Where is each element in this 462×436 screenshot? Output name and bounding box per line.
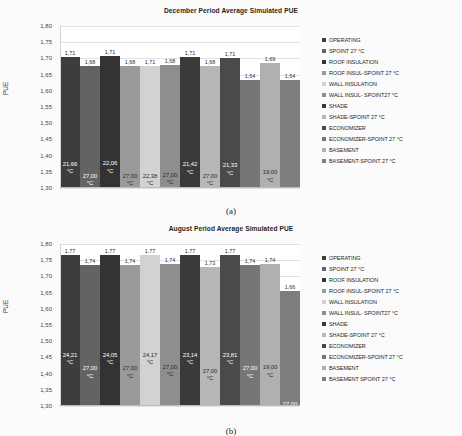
- bar[interactable]: 27,00°C: [120, 66, 140, 188]
- bar[interactable]: 22,06°C: [100, 56, 120, 188]
- legend-item[interactable]: WALL INSULATION: [322, 80, 462, 87]
- bar-temperature-label: 27,00°C: [160, 364, 180, 379]
- legend-swatch-icon: [322, 300, 326, 304]
- legend-swatch-icon: [322, 38, 326, 42]
- bar[interactable]: 19,00°C: [260, 63, 280, 188]
- bar[interactable]: 27,00°C: [200, 66, 220, 188]
- legend-swatch-icon: [322, 93, 326, 97]
- legend-item[interactable]: BASEMENT: [322, 364, 462, 371]
- bar-temperature-label: 21,33°C: [220, 162, 240, 177]
- legend-item[interactable]: ROOF INSULATION: [322, 58, 462, 65]
- bar-slot: 27,00°C1,74: [240, 244, 260, 406]
- bar[interactable]: 24,05°C: [100, 255, 120, 406]
- legend-item[interactable]: ROOF INSUL-SPOINT 27 °C: [322, 69, 462, 76]
- y-tick-label: 1,40: [40, 153, 52, 159]
- legend-label: SHADE-SPOINT 27 °C: [329, 114, 385, 120]
- y-axis-line-a: [60, 26, 61, 188]
- legend-swatch-icon: [322, 159, 326, 163]
- legend-label: SHADE: [329, 321, 348, 327]
- legend-label: SHADE: [329, 103, 348, 109]
- x-axis-line-a: [60, 187, 300, 188]
- bar-temperature-label: 27,00°C: [240, 365, 260, 380]
- legend-item[interactable]: ECONOMIZER-SPOINT 27 °C: [322, 135, 462, 142]
- bar-slot: 23,81°C1,77: [220, 244, 240, 406]
- bar-temperature-label: 27,00°C: [80, 365, 100, 380]
- y-tick-label: 1,40: [40, 371, 52, 377]
- bar[interactable]: 21,42°C: [180, 57, 200, 188]
- legend-item[interactable]: ECONOMIZER-SPOINT 27 °C: [322, 353, 462, 360]
- bar-temperature-label: 24,21°C: [60, 352, 80, 367]
- legend-label: WALL INSUL- SPOINT27 °C: [329, 310, 398, 316]
- legend-item[interactable]: SHADE-SPOINT 27 °C: [322, 331, 462, 338]
- bar-slot: 19,00°C1,74: [260, 244, 280, 406]
- bar-slot: 24,17°C1,77: [140, 244, 160, 406]
- legend-label: ECONOMIZER-SPOINT 27 °C: [329, 136, 403, 142]
- legend-swatch-icon: [322, 60, 326, 64]
- legend-item[interactable]: SHADE: [322, 320, 462, 327]
- figure-a: December Period Average Simulated PUE PU…: [0, 0, 462, 218]
- bar[interactable]: 27,00°C: [80, 265, 100, 406]
- figure-caption-a: (a): [0, 206, 462, 216]
- bar[interactable]: 22,38°C: [140, 66, 160, 188]
- legend-item[interactable]: BASEMENT: [322, 146, 462, 153]
- chart-title-august: August Period Average Simulated PUE: [0, 225, 462, 232]
- bar[interactable]: 27,00°C: [240, 80, 260, 188]
- legend-item[interactable]: WALL INSUL- SPOINT27 °C: [322, 309, 462, 316]
- y-tick-label: 1,75: [40, 257, 52, 263]
- bar[interactable]: 27,00°C: [120, 265, 140, 406]
- bar-slot: 27,00°C1,64: [280, 26, 300, 188]
- legend-item[interactable]: WALL INSULATION: [322, 298, 462, 305]
- bar[interactable]: 23,81°C: [220, 255, 240, 406]
- y-tick-label: 1,35: [40, 387, 52, 393]
- legend-label: BASEMENT: [329, 147, 359, 153]
- bar[interactable]: 27,00°C: [200, 267, 220, 406]
- bar-slot: 24,05°C1,77: [100, 244, 120, 406]
- legend-item[interactable]: OPERATING: [322, 36, 462, 43]
- legend-item[interactable]: OPERATING: [322, 254, 462, 261]
- y-tick-label: 1,60: [40, 306, 52, 312]
- legend-label: BASEMENT: [329, 365, 359, 371]
- legend-item[interactable]: SPOINT 27 °C: [322, 47, 462, 54]
- bar-slot: 27,00°C1,74: [160, 244, 180, 406]
- bar[interactable]: 27,00°C: [160, 264, 180, 406]
- legend-item[interactable]: ECONOMIZER: [322, 124, 462, 131]
- bar-temperature-label: 27,00°C: [280, 401, 300, 416]
- bar[interactable]: 24,17°C: [140, 255, 160, 406]
- bar-value-label: 1,66: [277, 284, 303, 290]
- legend-item[interactable]: ROOF INSULATION: [322, 276, 462, 283]
- bar[interactable]: 27,00°C: [240, 265, 260, 406]
- y-axis-label-a: PUE: [2, 82, 9, 95]
- bar-temperature-label: 23,14°C: [180, 352, 200, 367]
- y-axis-line-b: [60, 244, 61, 406]
- bar[interactable]: 21,66°C: [60, 57, 80, 188]
- bar-temperature-label: 22,06°C: [100, 160, 120, 175]
- legend-item[interactable]: ECONOMIZER: [322, 342, 462, 349]
- bar[interactable]: 24,21°C: [60, 255, 80, 406]
- y-tick-label: 1,60: [40, 88, 52, 94]
- legend-item[interactable]: SHADE: [322, 102, 462, 109]
- bar[interactable]: 27,00°C: [160, 65, 180, 188]
- y-tick-label: 1,30: [40, 403, 52, 409]
- bar[interactable]: 27,00°C: [280, 80, 300, 188]
- legend-swatch-icon: [322, 115, 326, 119]
- bar[interactable]: 27,00°C: [280, 291, 300, 406]
- legend-label: WALL INSULATION: [329, 299, 377, 305]
- legend-swatch-icon: [322, 311, 326, 315]
- legend-item[interactable]: ROOF INSUL-SPOINT 27 °C: [322, 287, 462, 294]
- figure-page: December Period Average Simulated PUE PU…: [0, 0, 462, 436]
- bar-slot: 24,21°C1,77: [60, 244, 80, 406]
- plot-area-b: 24,21°C1,7727,00°C1,7424,05°C1,7727,00°C…: [60, 244, 300, 406]
- bar[interactable]: 27,00°C: [80, 66, 100, 188]
- bar-slot: 27,00°C1,66: [280, 244, 300, 406]
- legend-item[interactable]: BASEMENT-SPOINT 27 °C: [322, 158, 462, 165]
- legend-item[interactable]: SPOINT 27 °C: [322, 265, 462, 272]
- legend-item[interactable]: WALL INSUL- SPOINT27 °C: [322, 91, 462, 98]
- legend-label: WALL INSUL- SPOINT27 °C: [329, 92, 398, 98]
- legend-item[interactable]: BASEMENT SPOINT 27 °C: [322, 376, 462, 383]
- plot-area-a: 21,66°C1,7127,00°C1,6822,06°C1,7127,00°C…: [60, 26, 300, 188]
- legend-label: BASEMENT-SPOINT 27 °C: [329, 158, 395, 164]
- legend-item[interactable]: SHADE-SPOINT 27 °C: [322, 113, 462, 120]
- bar[interactable]: 23,14°C: [180, 255, 200, 406]
- legend-swatch-icon: [322, 278, 326, 282]
- bar-temperature-label: 19,00°C: [260, 169, 280, 184]
